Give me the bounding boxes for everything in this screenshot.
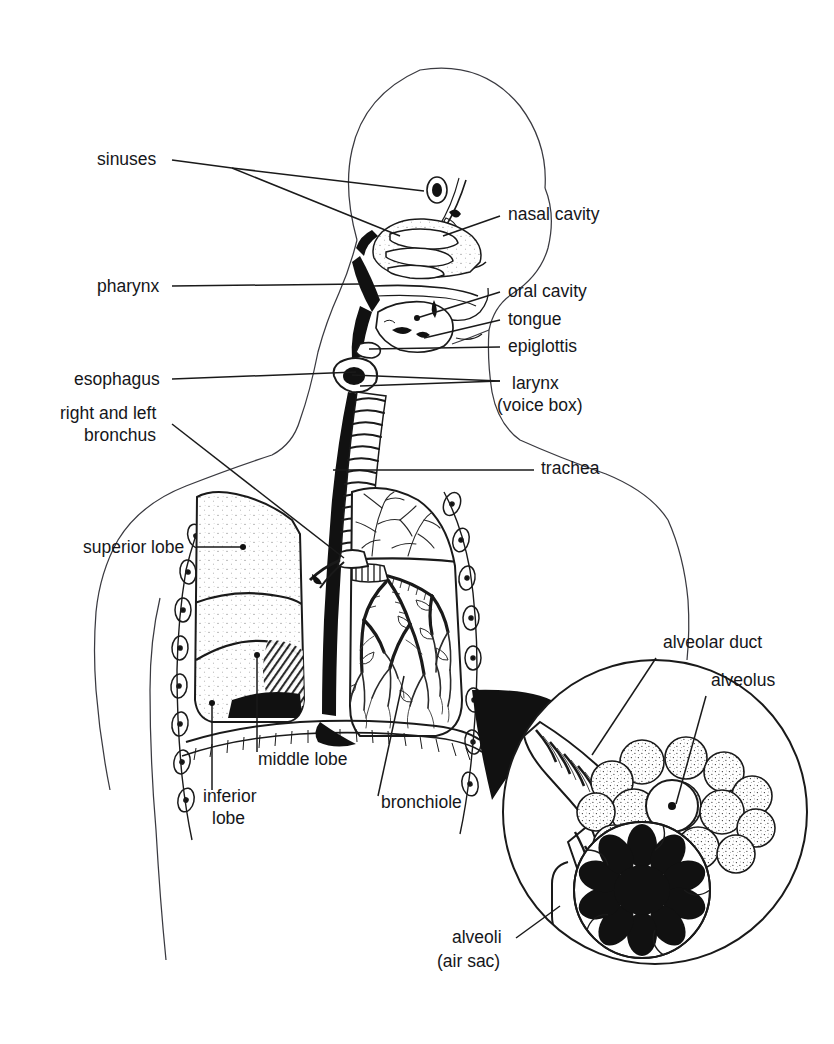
label-larynx-line2: (voice box) xyxy=(497,395,583,415)
epiglottis-shape xyxy=(356,343,380,358)
left-lung-lobes xyxy=(192,492,308,722)
label-alveoli-line1: alveoli xyxy=(452,927,502,947)
alveoli-inset xyxy=(503,660,807,964)
label-alveolar-duct: alveolar duct xyxy=(663,632,762,652)
label-epiglottis: epiglottis xyxy=(508,336,577,356)
label-alveolus: alveolus xyxy=(711,670,775,690)
label-esophagus: esophagus xyxy=(74,369,160,389)
label-sinuses: sinuses xyxy=(97,149,157,169)
label-pharynx: pharynx xyxy=(97,276,160,296)
label-oral-cavity: oral cavity xyxy=(508,281,587,301)
label-trachea: trachea xyxy=(541,458,600,478)
alveoli-air-sac-shape xyxy=(574,822,710,958)
label-inferior-lobe-line1: inferior xyxy=(203,786,257,806)
label-nasal-cavity: nasal cavity xyxy=(508,204,600,224)
label-bronchiole: bronchiole xyxy=(381,792,462,812)
label-alveoli-line2: (air sac) xyxy=(437,951,500,971)
label-tongue: tongue xyxy=(508,309,562,329)
diagram-canvas: sinuses pharynx esophagus right and left… xyxy=(0,0,834,1044)
respiratory-system-figure: sinuses pharynx esophagus right and left… xyxy=(0,0,834,1044)
label-bronchus-line1: right and left xyxy=(60,403,156,423)
label-larynx-line1: larynx xyxy=(512,373,559,393)
label-superior-lobe: superior lobe xyxy=(83,537,184,557)
label-inferior-lobe-line2: lobe xyxy=(212,808,245,828)
label-bronchus-line2: bronchus xyxy=(84,425,156,445)
label-middle-lobe: middle lobe xyxy=(258,749,348,769)
